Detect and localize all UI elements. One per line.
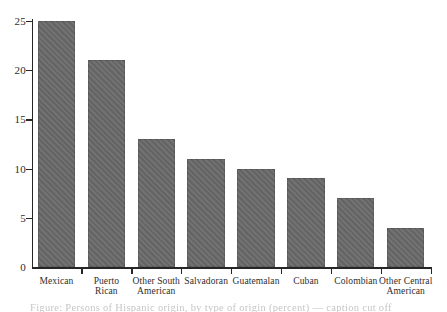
category-label-other-central-american: Other Central American: [368, 276, 444, 296]
bar-chart-figure: 0510152025MexicanPuerto RicanOther South…: [0, 0, 447, 312]
bar-other-south-american: [138, 139, 175, 267]
y-tick-label: 10: [2, 163, 26, 175]
y-tick-label: 25: [2, 15, 26, 27]
x-tick: [431, 269, 432, 274]
x-tick: [231, 269, 232, 274]
bar-puerto-rican: [88, 60, 125, 267]
bar-colombian: [337, 198, 374, 267]
y-axis: [32, 19, 34, 269]
x-tick: [381, 269, 382, 274]
y-tick: [26, 169, 32, 170]
cutoff-caption-illegible: Figure: Persons of Hispanic origin, by t…: [30, 302, 430, 312]
x-tick: [281, 269, 282, 274]
y-tick-label: 20: [2, 64, 26, 76]
bar-other-central-american: [387, 228, 424, 267]
bar-guatemalan: [237, 169, 274, 267]
x-tick: [331, 269, 332, 274]
y-tick: [26, 218, 32, 219]
y-tick: [26, 21, 32, 22]
y-tick-label: 0: [2, 261, 26, 273]
y-tick-label: 5: [2, 212, 26, 224]
bar-cuban: [287, 178, 324, 267]
bar-salvadoran: [187, 159, 224, 267]
y-tick: [26, 70, 32, 71]
x-tick: [81, 269, 82, 274]
x-tick: [131, 269, 132, 274]
y-tick-label: 15: [2, 113, 26, 125]
y-tick: [26, 119, 32, 120]
x-tick: [181, 269, 182, 274]
bar-mexican: [38, 21, 75, 267]
